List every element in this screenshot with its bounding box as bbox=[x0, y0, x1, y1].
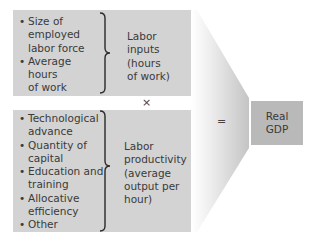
factor-employed-labor-force: Size of employed labor force bbox=[19, 15, 85, 55]
multiply-operator: × bbox=[142, 96, 151, 109]
text-line: Average bbox=[28, 55, 71, 67]
text-line: labor force bbox=[28, 42, 85, 54]
text-line: Quantity of bbox=[28, 139, 87, 151]
factor-technological-advance: Technological advance bbox=[19, 112, 103, 139]
factor-quantity-of-capital: Quantity of capital bbox=[19, 139, 103, 166]
factor-allocative-efficiency: Allocative efficiency bbox=[19, 192, 103, 219]
factor-other: Other bbox=[19, 218, 103, 231]
text-line: Technological bbox=[28, 112, 99, 124]
text-line: employed bbox=[28, 28, 80, 40]
labor-inputs-factors: Size of employed labor force Average hou… bbox=[19, 15, 85, 95]
text-line: hours bbox=[28, 68, 58, 80]
text-line: advance bbox=[28, 125, 73, 137]
right-brace-icon bbox=[98, 12, 112, 94]
text-line: capital bbox=[28, 152, 63, 164]
text-line: of work bbox=[28, 81, 67, 93]
text-line: Allocative bbox=[28, 192, 79, 204]
text-line: Education and bbox=[28, 165, 103, 177]
labor-inputs-label: Labor inputs (hours of work) bbox=[127, 30, 170, 83]
text-line: efficiency bbox=[28, 205, 78, 217]
equals-operator: = bbox=[217, 115, 226, 128]
text-line: Other bbox=[28, 218, 58, 230]
text-line: Size of bbox=[28, 15, 63, 27]
text-line: training bbox=[28, 178, 69, 190]
factor-education-and-training: Education and training bbox=[19, 165, 103, 192]
real-gdp-box: Real GDP bbox=[251, 101, 303, 145]
factor-average-hours: Average hours of work bbox=[19, 55, 85, 95]
labor-productivity-factors: Technological advance Quantity of capita… bbox=[19, 112, 103, 232]
labor-productivity-label: Labor productivity (average output per h… bbox=[124, 140, 187, 206]
real-gdp-line2: GDP bbox=[251, 123, 303, 136]
right-brace-icon bbox=[98, 110, 112, 232]
real-gdp-line1: Real bbox=[251, 110, 303, 123]
